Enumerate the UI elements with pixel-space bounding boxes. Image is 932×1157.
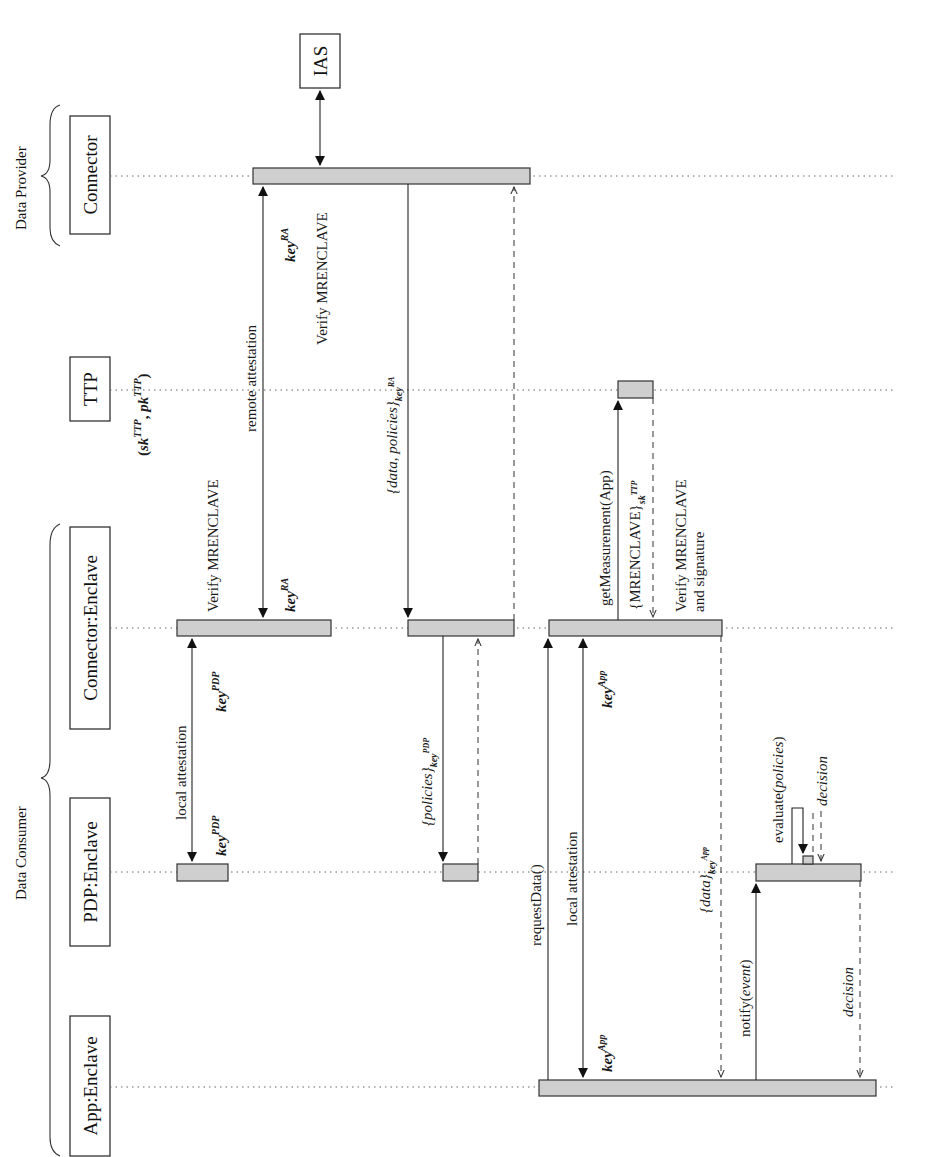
activation-pdp-1 (177, 864, 228, 881)
key-app-conn: keyApp (596, 671, 615, 709)
participant-connector-enclave: Connector:Enclave (70, 527, 110, 729)
verify-mrenclave-provider: Verify MRENCLAVE (314, 212, 330, 345)
svg-text:TTP: TTP (80, 372, 101, 406)
svg-text:(skTTP, pkTTP): (skTTP, pkTTP) (132, 374, 152, 457)
evaluate-self-call-arrow (792, 808, 803, 864)
key-ra-consumer: keyRA (279, 578, 298, 612)
evaluate-label: evaluate(policies) (770, 736, 787, 843)
group-data-provider: Data Provider (13, 105, 60, 246)
participant-app-enclave: App:Enclave (70, 1016, 110, 1156)
key-pdp-conn: keyPDP (210, 671, 229, 712)
brace-icon (41, 105, 60, 246)
policies-pdp-label: {policies}keyPDP (419, 738, 439, 826)
remote-attestation-label: remote attestation (243, 324, 259, 432)
request-data-label: requestData() (528, 864, 545, 946)
group-label-provider: Data Provider (13, 146, 29, 230)
activation-app (539, 1080, 876, 1096)
verify-signature-line1: Verify MRENCLAVE (673, 479, 689, 612)
sequence-diagram: Data Provider Data Consumer Connector IA… (0, 0, 932, 1157)
activation-ttp (618, 381, 653, 398)
verify-signature-line2: and signature (691, 531, 707, 612)
participant-ttp: TTP (70, 357, 110, 421)
activation-conn-enclave-2 (408, 620, 514, 636)
get-measurement-label: getMeasurement(App) (597, 470, 614, 606)
svg-text:IAS: IAS (310, 46, 331, 77)
brace-icon (41, 524, 60, 1156)
local-attestation-pdp-label: local attestation (173, 725, 189, 820)
local-attestation-app-label: local attestation (564, 831, 580, 926)
key-pdp-pdp: keyPDP (210, 815, 229, 856)
group-data-consumer: Data Consumer (13, 524, 60, 1156)
participant-ias: IAS (300, 34, 340, 88)
data-app-label: {data}keyApp (697, 847, 717, 913)
ttp-keypair-note: (skTTP, pkTTP) (132, 374, 152, 457)
participant-connector: Connector (70, 116, 110, 234)
notify-label: notify(event) (737, 960, 754, 1037)
activation-conn-enclave-3 (549, 620, 722, 636)
participant-pdp-enclave: PDP:Enclave (70, 798, 110, 946)
group-label-consumer: Data Consumer (13, 806, 29, 900)
key-app-app: keyApp (596, 1035, 615, 1073)
decision-inner-label: decision (814, 756, 830, 806)
activation-connector (253, 168, 530, 184)
activation-pdp-2 (443, 864, 478, 881)
svg-text:Connector: Connector (80, 135, 101, 215)
svg-text:Connector:Enclave: Connector:Enclave (80, 555, 101, 701)
svg-text:App:Enclave: App:Enclave (80, 1036, 101, 1135)
verify-mrenclave-consumer: Verify MRENCLAVE (205, 479, 221, 612)
decision-return-label: decision (840, 967, 856, 1017)
key-ra-provider: keyRA (279, 228, 298, 262)
mrenclave-signed-label: {MRENCLAVE}skTTP (627, 481, 647, 610)
activation-evaluate (803, 856, 813, 864)
activation-pdp-3 (756, 864, 861, 881)
activation-conn-enclave-1 (177, 620, 331, 636)
data-policies-label: {data, policies}keyRA (384, 376, 404, 494)
svg-text:PDP:Enclave: PDP:Enclave (80, 821, 101, 922)
